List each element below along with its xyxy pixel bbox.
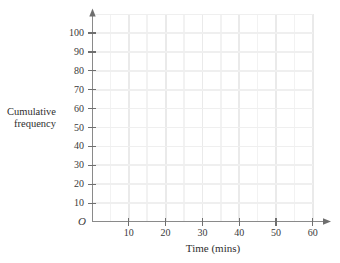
y-tick-label-50: 50 <box>60 123 84 133</box>
y-axis-title: Cumulative frequency <box>4 106 56 131</box>
y-tick-label-100: 100 <box>60 28 84 38</box>
y-tick-label-80: 80 <box>60 66 84 76</box>
x-tick-label-40: 40 <box>234 228 244 238</box>
y-tick-label-10: 10 <box>60 198 84 208</box>
cumulative-frequency-chart: 100 90 80 70 60 50 40 30 20 10 O 10 20 3… <box>0 0 340 263</box>
y-tick-label-60: 60 <box>60 104 84 114</box>
x-tick-label-60: 60 <box>308 228 318 238</box>
chart-canvas <box>0 0 340 263</box>
y-axis-line <box>89 9 95 223</box>
y-tick-label-70: 70 <box>60 85 84 95</box>
y-axis-title-line1: Cumulative <box>4 106 56 118</box>
x-tick-label-20: 20 <box>161 228 171 238</box>
y-tick-label-90: 90 <box>60 47 84 57</box>
origin-label: O <box>78 216 86 227</box>
y-tick-label-40: 40 <box>60 141 84 151</box>
x-tick-label-30: 30 <box>197 228 207 238</box>
y-tick-label-20: 20 <box>60 179 84 189</box>
x-tick-label-50: 50 <box>271 228 281 238</box>
y-tick-label-30: 30 <box>60 160 84 170</box>
x-axis-title: Time (mins) <box>186 242 240 254</box>
y-axis-title-line2: frequency <box>4 118 56 130</box>
x-tick-label-10: 10 <box>124 228 134 238</box>
